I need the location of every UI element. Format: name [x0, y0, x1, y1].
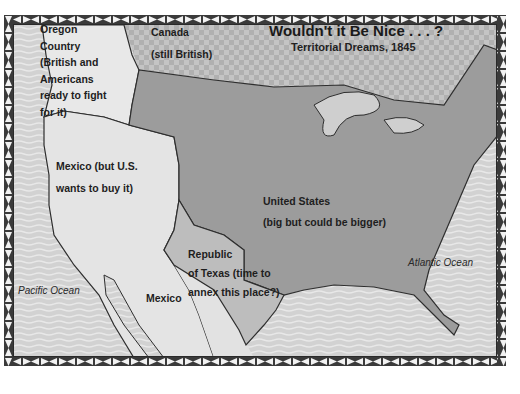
- texas-label: Republic of Texas (time to annex this pl…: [188, 245, 280, 302]
- oregon-label: Oregon Country (British and Americans re…: [40, 24, 107, 120]
- mexico-north-label: Mexico (but U.S. wants to buy it): [56, 155, 138, 199]
- pacific-ocean-label: Pacific Ocean: [18, 285, 80, 296]
- united-states-label: United States (big but could be bigger): [263, 191, 386, 233]
- atlantic-ocean-label: Atlantic Ocean: [408, 257, 473, 268]
- map-canvas: Oregon Country (British and Americans re…: [13, 24, 497, 357]
- canada-label: Canada (still British): [151, 24, 212, 65]
- map-frame: Oregon Country (British and Americans re…: [4, 15, 506, 366]
- map-subtitle: Territorial Dreams, 1845: [291, 41, 416, 53]
- mexico-label: Mexico: [146, 289, 182, 308]
- map-title: Wouldn't it Be Nice . . . ?: [269, 24, 443, 39]
